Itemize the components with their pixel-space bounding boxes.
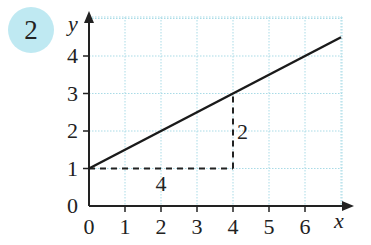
y-tick-label: 4 bbox=[67, 43, 78, 68]
grid bbox=[89, 17, 342, 206]
y-tick-label: 1 bbox=[67, 156, 78, 181]
x-tick-label: 1 bbox=[120, 214, 131, 239]
annotations: 42 bbox=[89, 94, 248, 196]
x-tick-label: 5 bbox=[264, 214, 275, 239]
tick-labels: 012345601234xy bbox=[66, 11, 344, 239]
x-tick-label: 0 bbox=[84, 214, 95, 239]
y-tick-label: 3 bbox=[67, 81, 78, 106]
y-tick-label: 0 bbox=[67, 193, 78, 218]
y-axis-label: y bbox=[66, 11, 78, 36]
series-line bbox=[89, 37, 341, 168]
data-series bbox=[89, 37, 341, 168]
x-axis-arrow-icon bbox=[342, 201, 354, 211]
x-tick-label: 4 bbox=[228, 214, 239, 239]
y-tick-label: 2 bbox=[67, 118, 78, 143]
axes bbox=[83, 11, 354, 212]
x-tick-label: 6 bbox=[300, 214, 311, 239]
rise-label: 2 bbox=[237, 119, 248, 144]
run-label: 4 bbox=[156, 171, 167, 196]
x-axis-label: x bbox=[333, 208, 344, 233]
x-tick-label: 2 bbox=[156, 214, 167, 239]
x-tick-label: 3 bbox=[192, 214, 203, 239]
line-chart: 42 012345601234xy bbox=[0, 0, 371, 245]
